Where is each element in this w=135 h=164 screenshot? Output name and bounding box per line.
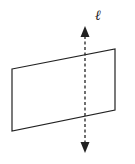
diagram-canvas (0, 0, 135, 164)
line-label: ℓ (95, 7, 101, 24)
plane-parallelogram (12, 49, 115, 131)
arrow-up-icon (81, 26, 90, 37)
arrow-down-icon (81, 142, 90, 153)
